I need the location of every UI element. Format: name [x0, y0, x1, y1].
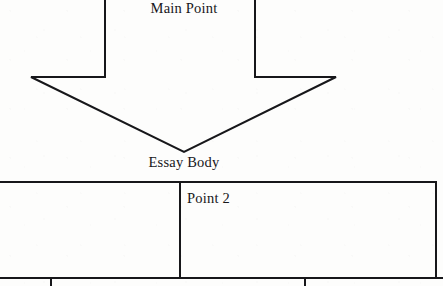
diagram-vector-layer [0, 0, 443, 286]
down-arrow-icon [31, 0, 336, 152]
point-2-label: Point 2 [187, 191, 230, 206]
diagram-canvas: Main Point Essay Body Point 2 [0, 0, 443, 286]
main-point-label: Main Point [0, 1, 368, 16]
essay-body-label: Essay Body [0, 155, 368, 170]
